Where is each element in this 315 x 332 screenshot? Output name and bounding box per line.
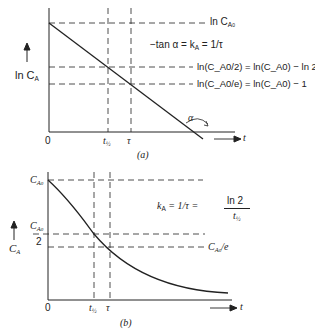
b-ca0-label: CA0 bbox=[30, 175, 43, 187]
a-angle-label: α bbox=[188, 113, 193, 123]
b-half-denominator: 2 bbox=[36, 237, 42, 247]
a-y-axis-label: ln CA bbox=[15, 70, 39, 83]
b-decay-curve bbox=[48, 180, 228, 293]
a-t-half-label: t½ bbox=[103, 136, 111, 148]
a-tau-label: τ bbox=[127, 136, 131, 146]
b-caption: (b) bbox=[120, 318, 132, 328]
b-ca0-over-e-label: CA0/e bbox=[208, 242, 228, 254]
b-rate-denominator: t½ bbox=[233, 211, 241, 223]
b-rate-label: kA = 1/τ = bbox=[157, 201, 198, 213]
b-origin-label: 0 bbox=[45, 303, 51, 313]
a-e-label: ln(C_A0/e) = ln(C_A0) − 1 bbox=[197, 79, 307, 89]
a-ln-ca0-label: ln CA0 bbox=[210, 17, 235, 29]
a-origin-label: 0 bbox=[45, 136, 51, 146]
b-rate-fraction-bar bbox=[224, 208, 250, 209]
a-t-axis-label: t bbox=[243, 133, 246, 143]
b-rate-numerator: ln 2 bbox=[227, 196, 243, 206]
b-t-half-label: t½ bbox=[89, 303, 97, 315]
b-half-numerator: CA0 bbox=[30, 221, 43, 233]
b-t-axis-label: t bbox=[240, 302, 243, 312]
b-y-axis-label: CA bbox=[9, 243, 20, 256]
b-tau-label: τ bbox=[106, 303, 110, 313]
a-slope-label: −tan α = kA = 1/τ bbox=[150, 40, 223, 52]
a-half-label: ln(C_A0/2) = ln(C_A0) − ln 2 bbox=[197, 62, 315, 72]
a-caption: (a) bbox=[137, 150, 149, 160]
